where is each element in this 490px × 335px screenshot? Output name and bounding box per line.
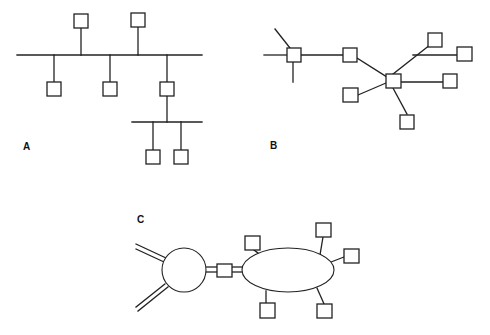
diagram-b-star-topology: [264, 29, 472, 129]
diagram-c-double-link: [136, 284, 165, 307]
diagram-c-ellipse-network: [242, 248, 334, 292]
diagram-b-link: [393, 88, 407, 114]
diagram-b-label: B: [270, 140, 277, 151]
diagram-c-node-box: [260, 303, 275, 318]
diagram-c-link: [320, 237, 323, 255]
diagram-c-double-link: [138, 287, 168, 311]
diagram-b-node-box: [443, 74, 457, 88]
diagram-c-ring-bridge-topology: [136, 223, 359, 318]
diagram-a-node-box: [160, 82, 174, 96]
diagram-b-node-box: [457, 47, 472, 61]
diagram-c-node-box: [217, 264, 232, 277]
diagram-b-node-box: [287, 48, 301, 62]
diagram-b-node-box: [400, 115, 414, 129]
diagram-a-node-box: [174, 150, 188, 164]
network-topology-figure: A B C: [0, 0, 490, 335]
diagram-b-node-box: [343, 88, 358, 102]
diagram-a-node-box: [74, 14, 88, 28]
diagram-c-label: C: [137, 214, 144, 225]
diagram-b-node-box: [386, 74, 401, 88]
diagram-c-node-box: [316, 223, 331, 237]
diagram-c-circle-network: [162, 248, 206, 292]
diagram-c-node-box: [317, 304, 332, 318]
diagram-a-label: A: [23, 141, 30, 152]
diagram-a-node-box: [146, 150, 160, 164]
diagram-b-link: [358, 83, 386, 95]
diagram-b-node-box: [428, 33, 442, 47]
diagram-c-link: [331, 257, 344, 262]
diagram-b-node-box: [343, 48, 357, 62]
diagram-c-node-box: [245, 236, 260, 250]
diagram-c-node-box: [344, 249, 359, 263]
diagram-b-link: [357, 58, 387, 77]
diagram-a-node-box: [131, 13, 145, 27]
diagram-a-node-box: [103, 82, 117, 96]
diagram-a-bus-topology: [17, 13, 202, 164]
diagram-b-link: [393, 45, 430, 74]
diagram-b-link: [275, 29, 290, 48]
diagram-a-node-box: [47, 82, 61, 96]
diagram-c-link: [317, 288, 324, 304]
